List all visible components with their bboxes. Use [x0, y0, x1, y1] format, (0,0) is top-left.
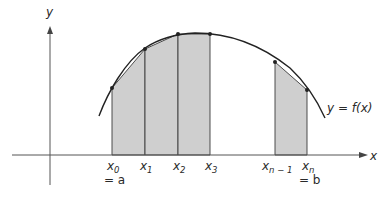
strip-x1-x2 — [145, 34, 178, 155]
y-axis-arrow-icon — [47, 26, 53, 34]
point-x3 — [208, 32, 212, 36]
label-a: = a — [104, 173, 125, 187]
strip-xn1-xn — [275, 62, 307, 155]
strip-x2-x3 — [178, 34, 210, 155]
point-x2 — [176, 32, 180, 36]
y-axis-label: y — [45, 5, 54, 19]
point-xn1 — [273, 60, 277, 64]
shaded-strips — [112, 34, 307, 155]
point-x1 — [143, 47, 147, 51]
x-axis-arrow-icon — [359, 152, 368, 158]
label-x3: x3 — [204, 159, 218, 175]
label-x1: x1 — [139, 159, 153, 175]
point-xn — [305, 88, 309, 92]
riemann-diagram: y x y = f(x) x0 = a x1 x2 x3 xn − 1 xn =… — [0, 0, 385, 197]
tick-labels: x0 = a x1 x2 x3 xn − 1 xn = b — [104, 159, 321, 187]
label-xn1: xn − 1 — [261, 159, 292, 175]
strip-x0-x1 — [112, 49, 145, 155]
label-x2: x2 — [172, 159, 186, 175]
point-x0 — [110, 86, 114, 90]
x-axis-label: x — [369, 149, 378, 163]
label-b: = b — [299, 173, 321, 187]
curve-label: y = f(x) — [326, 101, 372, 115]
